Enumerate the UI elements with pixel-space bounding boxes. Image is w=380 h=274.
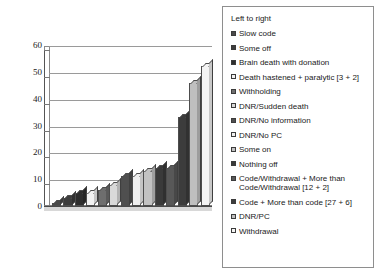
y-axis-tick-20: 20 bbox=[20, 148, 42, 157]
legend-item-label: Withholding bbox=[239, 87, 281, 96]
legend-item: Withdrawal bbox=[231, 227, 367, 236]
legend-item: Code/Withdrawal + More than Code/Withdra… bbox=[231, 174, 367, 192]
legend-item: Slow code bbox=[231, 29, 367, 38]
legend-swatch-icon bbox=[231, 228, 236, 233]
legend-item: DNR/No information bbox=[231, 116, 367, 125]
bar-6 bbox=[121, 176, 130, 206]
bar-12 bbox=[189, 83, 198, 206]
bar-4 bbox=[98, 190, 107, 206]
legend-item-label: Death hastened + paralytic [3 + 2] bbox=[239, 73, 359, 82]
bar-series bbox=[44, 46, 212, 211]
legend-title: Left to right bbox=[231, 14, 367, 23]
bar-5 bbox=[109, 185, 118, 206]
bar-13 bbox=[201, 66, 210, 206]
legend-item-label: Code + More than code [27 + 6] bbox=[239, 198, 352, 207]
y-axis-tick-60: 60 bbox=[20, 41, 42, 50]
legend-swatch-icon bbox=[231, 161, 236, 166]
legend-item-label: Nothing off bbox=[239, 160, 278, 169]
legend-item-label: DNR/Sudden death bbox=[239, 102, 308, 111]
legend-item-label: DNR/No PC bbox=[239, 131, 282, 140]
legend-item-label: Some on bbox=[239, 145, 271, 154]
y-axis-tick-0: 0 bbox=[20, 202, 42, 211]
y-axis-tick-30: 30 bbox=[20, 122, 42, 131]
legend-swatch-icon bbox=[231, 31, 236, 36]
bar-9 bbox=[155, 168, 164, 206]
legend-swatch-icon bbox=[231, 199, 236, 204]
legend-swatch-icon bbox=[231, 89, 236, 94]
chart-legend: Left to right Slow codeSome offBrain dea… bbox=[222, 6, 374, 268]
bar-7 bbox=[132, 176, 141, 206]
legend-item: Some off bbox=[231, 44, 367, 53]
y-axis-tick-10: 10 bbox=[20, 175, 42, 184]
bar-side-face bbox=[209, 59, 213, 205]
legend-swatch-icon bbox=[231, 147, 236, 152]
legend-swatch-icon bbox=[231, 103, 236, 108]
legend-item-label: DNR/No information bbox=[239, 116, 311, 125]
bar-3 bbox=[86, 193, 95, 206]
legend-swatch-icon bbox=[231, 74, 236, 79]
bar-10 bbox=[166, 168, 175, 206]
legend-item-label: Code/Withdrawal + More than Code/Withdra… bbox=[239, 174, 345, 192]
legend-swatch-icon bbox=[231, 45, 236, 50]
legend-item-label: Withdrawal bbox=[239, 227, 279, 236]
bar-1 bbox=[63, 198, 72, 206]
legend-item: Some on bbox=[231, 145, 367, 154]
legend-item-label: Slow code bbox=[239, 29, 276, 38]
bar-8 bbox=[143, 171, 152, 206]
legend-item: DNR/Sudden death bbox=[231, 102, 367, 111]
legend-item-label: Brain death with donation bbox=[239, 58, 329, 67]
y-axis-tick-labels: 0102030405060 bbox=[20, 42, 42, 212]
bar-2 bbox=[75, 193, 84, 206]
y-axis-tick-50: 50 bbox=[20, 68, 42, 77]
bar-11 bbox=[178, 117, 187, 206]
y-axis-tick-40: 40 bbox=[20, 95, 42, 104]
bar-0 bbox=[52, 203, 61, 206]
legend-item: DNR/No PC bbox=[231, 131, 367, 140]
legend-swatch-icon bbox=[231, 118, 236, 123]
legend-swatch-icon bbox=[231, 214, 236, 219]
legend-item: Brain death with donation bbox=[231, 58, 367, 67]
chart-screenshot: 0102030405060 Left to right Slow codeSom… bbox=[0, 0, 380, 274]
legend-swatch-icon bbox=[231, 60, 236, 65]
legend-item: Withholding bbox=[231, 87, 367, 96]
legend-swatch-icon bbox=[231, 176, 236, 181]
legend-item-label: Some off bbox=[239, 44, 271, 53]
legend-item: Death hastened + paralytic [3 + 2] bbox=[231, 73, 367, 82]
legend-swatch-icon bbox=[231, 132, 236, 137]
legend-item: DNR/PC bbox=[231, 212, 367, 221]
legend-item: Nothing off bbox=[231, 160, 367, 169]
legend-item: Code + More than code [27 + 6] bbox=[231, 198, 367, 207]
legend-item-label: DNR/PC bbox=[239, 212, 270, 221]
bar-chart-plot: 0102030405060 bbox=[0, 0, 215, 274]
legend-item-list: Slow codeSome offBrain death with donati… bbox=[231, 29, 367, 236]
